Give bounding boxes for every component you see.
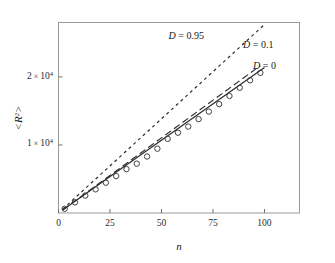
data-point-marker [196, 116, 201, 121]
x-axis-tick-labels: 0255075100 [56, 218, 272, 228]
y-axis-tick-marks [59, 77, 63, 145]
x-axis-tick-label: 100 [257, 218, 272, 228]
data-point-marker [113, 173, 118, 178]
data-point-marker [144, 154, 149, 159]
data-point-markers-group [62, 70, 263, 211]
data-point-marker [237, 85, 242, 90]
x-axis-tick-marks [59, 209, 265, 213]
series-annotation: D = 0 [252, 60, 276, 71]
data-point-marker [186, 124, 191, 129]
series-annotation: D = 0.95 [168, 30, 204, 41]
y-axis-tick-label-upper: 2 × 104 [27, 70, 54, 81]
x-axis-tick-label: 50 [157, 218, 167, 228]
y-axis-tick-label-lower: 1 × 104 [27, 137, 54, 148]
x-axis-tick-label: 25 [105, 218, 115, 228]
y-axis-title-text: <R2> [12, 106, 24, 131]
data-point-marker [227, 93, 232, 98]
y-axis-title: <R2> [12, 106, 24, 131]
series-lines-group [63, 25, 265, 211]
data-point-marker [103, 180, 108, 185]
data-point-marker [175, 130, 180, 135]
data-point-marker [124, 166, 129, 171]
chart-canvas: 0255075100 2 × 104 1 × 104 n <R2> D = 0.… [0, 0, 335, 263]
data-point-marker [165, 136, 170, 141]
series-line-dotted [63, 25, 265, 210]
data-point-marker [206, 109, 211, 114]
x-axis-title: n [176, 240, 182, 252]
data-point-marker [216, 101, 221, 106]
series-annotations-group: D = 0.95D = 0.1D = 0 [168, 30, 276, 72]
data-point-marker [155, 146, 160, 151]
data-point-marker [247, 78, 252, 83]
data-point-marker [134, 161, 139, 166]
series-line-dashed [63, 66, 261, 210]
x-axis-tick-label: 75 [208, 218, 218, 228]
figure-container: 0255075100 2 × 104 1 × 104 n <R2> D = 0.… [0, 0, 335, 263]
x-axis-tick-label: 0 [56, 218, 61, 228]
series-annotation: D = 0.1 [242, 39, 273, 50]
plot-frame-box [59, 23, 300, 214]
